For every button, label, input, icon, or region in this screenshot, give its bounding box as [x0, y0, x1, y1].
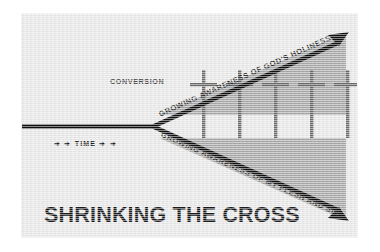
conversion-label: CONVERSION [110, 77, 164, 86]
time-axis-label: ➜ ➜ TIME ➜ ➜ [54, 140, 117, 148]
diagram-panel: GROWING AWARENESS OF GOD'S HOLINESS GROW… [21, 13, 358, 238]
page-title: SHRINKING THE CROSS [44, 203, 300, 228]
poster-canvas: GROWING AWARENESS OF GOD'S HOLINESS GROW… [0, 0, 380, 252]
